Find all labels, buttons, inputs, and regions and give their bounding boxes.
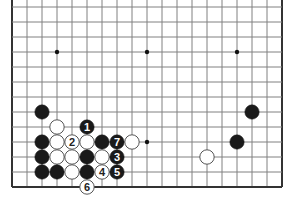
black-stone-icon xyxy=(80,165,94,179)
white-stone xyxy=(50,150,64,164)
white-stone xyxy=(65,165,79,179)
white-stone xyxy=(200,150,214,164)
black-stone-icon xyxy=(35,165,49,179)
white-stone-move-4: 4 xyxy=(95,165,109,179)
star-point-icon xyxy=(145,50,149,54)
black-stone xyxy=(35,135,49,149)
move-number-label: 6 xyxy=(84,181,90,193)
black-stone xyxy=(230,135,244,149)
black-stone-icon xyxy=(80,150,94,164)
white-stone-icon xyxy=(65,165,79,179)
black-stone xyxy=(80,165,94,179)
black-stone-move-1: 1 xyxy=(80,120,94,134)
black-stone xyxy=(80,150,94,164)
white-stone-move-2: 2 xyxy=(65,135,79,149)
white-stone xyxy=(80,135,94,149)
black-stone-icon xyxy=(35,135,49,149)
black-stone-move-3: 3 xyxy=(110,150,124,164)
star-point-icon xyxy=(235,50,239,54)
black-stone-icon xyxy=(50,165,64,179)
move-number-label: 4 xyxy=(99,166,106,178)
black-stone xyxy=(35,165,49,179)
white-stone xyxy=(125,135,139,149)
white-stone-icon xyxy=(95,150,109,164)
star-point-icon xyxy=(145,140,149,144)
black-stone-move-5: 5 xyxy=(110,165,124,179)
move-number-label: 3 xyxy=(114,151,120,163)
black-stone xyxy=(95,135,109,149)
black-stone-move-7: 7 xyxy=(110,135,124,149)
white-stone xyxy=(95,150,109,164)
move-number-label: 1 xyxy=(84,121,90,133)
black-stone xyxy=(35,150,49,164)
white-stone-move-6: 6 xyxy=(80,180,94,194)
white-stone-icon xyxy=(80,135,94,149)
go-board-diagram: 1273456 xyxy=(0,0,293,204)
white-stone-icon xyxy=(50,150,64,164)
black-stone-icon xyxy=(35,150,49,164)
move-number-label: 5 xyxy=(114,166,120,178)
move-number-label: 7 xyxy=(114,136,120,148)
white-stone xyxy=(65,150,79,164)
white-stone xyxy=(50,120,64,134)
black-stone-icon xyxy=(230,135,244,149)
white-stone-icon xyxy=(125,135,139,149)
black-stone xyxy=(50,165,64,179)
black-stone-icon xyxy=(35,105,49,119)
white-stone xyxy=(50,135,64,149)
star-point-icon xyxy=(55,50,59,54)
white-stone-icon xyxy=(65,150,79,164)
black-stone xyxy=(35,105,49,119)
white-stone-icon xyxy=(50,135,64,149)
black-stone-icon xyxy=(95,135,109,149)
white-stone-icon xyxy=(50,120,64,134)
white-stone-icon xyxy=(200,150,214,164)
black-stone-icon xyxy=(245,105,259,119)
black-stone xyxy=(245,105,259,119)
move-number-label: 2 xyxy=(69,136,75,148)
